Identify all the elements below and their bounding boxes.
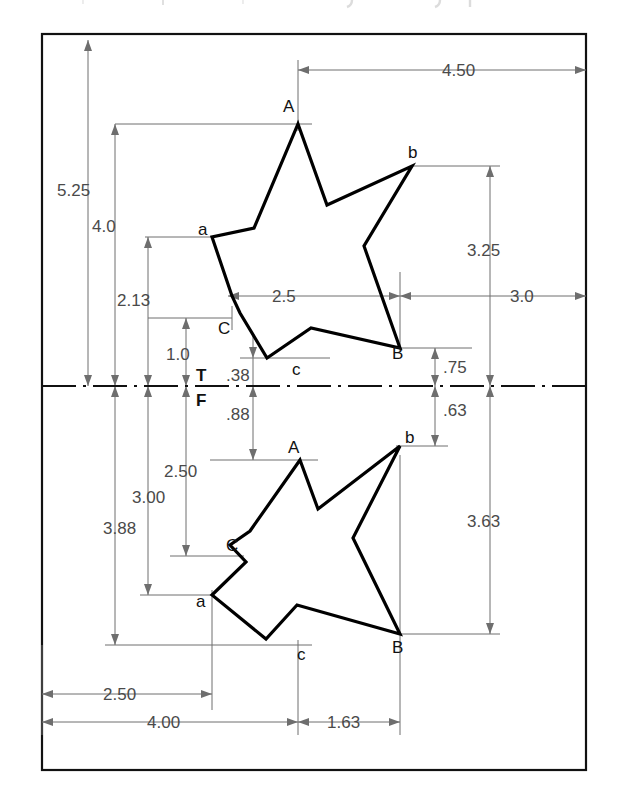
dimension-lines-group xyxy=(42,40,586,735)
arrow-3-63-bottom xyxy=(486,623,494,634)
dimtext-2-13: 2.13 xyxy=(117,291,150,310)
label-T: T xyxy=(196,366,207,385)
label-front-C: C xyxy=(226,536,238,555)
arrow-4-0-bottom xyxy=(111,375,119,386)
arrow-4-50-right xyxy=(575,66,586,74)
engineering-drawing-svg: A b a B C c A b C a B c T F 4.50 5.25 4.… xyxy=(0,0,618,804)
arrow-3-0-right xyxy=(575,292,586,300)
arrow-4-00-right xyxy=(287,718,298,726)
arrow-2-13-top xyxy=(144,237,152,248)
arrow-5-25-top xyxy=(84,40,92,51)
arrow-3-00-bottom xyxy=(144,584,152,595)
arrow-0-63-bottom xyxy=(431,435,439,446)
dimtext-4-00: 4.00 xyxy=(147,713,180,732)
dimtext-3-0: 3.0 xyxy=(510,287,534,306)
arrow-0-75-bottom xyxy=(431,375,439,386)
arrow-0-38-top xyxy=(249,347,257,358)
arrow-3-25-top xyxy=(486,166,494,177)
label-front-b: b xyxy=(405,428,414,447)
label-front-c: c xyxy=(297,645,306,664)
dimtext-1-0: 1.0 xyxy=(166,345,190,364)
arrow-5-25-bottom xyxy=(84,375,92,386)
arrow-3-0-left xyxy=(400,292,411,300)
arrow-2-50-top xyxy=(182,386,190,397)
drawing-border xyxy=(42,34,586,770)
label-front-A: A xyxy=(288,438,300,457)
label-top-A: A xyxy=(283,97,295,116)
dimtext-0-38: .38 xyxy=(226,366,250,385)
label-front-B: B xyxy=(392,638,403,657)
dimtext-0-63: .63 xyxy=(443,401,467,420)
arrow-0-88-top xyxy=(249,386,257,397)
drawing-canvas: A b a B C c A b C a B c T F 4.50 5.25 4.… xyxy=(0,0,618,804)
arrow-2-13-bottom xyxy=(144,375,152,386)
arrow-3-88-bottom xyxy=(111,634,119,645)
label-top-B: B xyxy=(392,344,403,363)
arrow-2-50b-right xyxy=(201,690,212,698)
label-top-c: c xyxy=(292,360,301,379)
dimtext-5-25: 5.25 xyxy=(57,181,90,200)
arrow-2-5-right xyxy=(389,292,400,300)
dimtext-3-63: 3.63 xyxy=(467,512,500,531)
dimtext-0-88: .88 xyxy=(226,405,250,424)
label-F: F xyxy=(196,391,206,410)
label-top-C: C xyxy=(218,319,230,338)
arrow-3-25-bottom xyxy=(486,375,494,386)
arrow-4-0-top xyxy=(111,124,119,135)
label-front-a: a xyxy=(196,592,206,611)
arrow-3-63-top xyxy=(486,386,494,397)
dimtext-3-25: 3.25 xyxy=(467,241,500,260)
dimtext-2-50-mid: 2.50 xyxy=(164,462,197,481)
dimtext-3-00: 3.00 xyxy=(132,488,165,507)
arrow-3-88-top xyxy=(111,386,119,397)
arrow-4-50-left xyxy=(298,66,309,74)
dimtext-0-75: .75 xyxy=(443,358,467,377)
arrow-1-0-top xyxy=(182,318,190,329)
top-view-star xyxy=(212,124,412,358)
arrow-0-63-top xyxy=(431,386,439,397)
arrow-1-63-left xyxy=(298,718,309,726)
cropped-caption-remnant xyxy=(83,0,470,7)
dimtext-4-0: 4.0 xyxy=(92,217,116,236)
front-view-star xyxy=(212,446,400,639)
arrow-3-00-top xyxy=(144,386,152,397)
arrow-2-50-bottom xyxy=(182,545,190,556)
dimtext-4-50: 4.50 xyxy=(442,61,475,80)
dimtext-2-50-bottom: 2.50 xyxy=(103,685,136,704)
dimtext-1-63: 1.63 xyxy=(327,713,360,732)
label-top-a: a xyxy=(198,220,208,239)
arrow-4-00-left xyxy=(42,718,53,726)
dimtext-3-88: 3.88 xyxy=(103,519,136,538)
arrow-1-0-bottom xyxy=(182,375,190,386)
arrow-0-88-bottom xyxy=(249,449,257,460)
arrow-2-50b-left xyxy=(42,690,53,698)
dimtext-2-5: 2.5 xyxy=(272,287,296,306)
arrow-0-75-top xyxy=(431,348,439,359)
label-top-b: b xyxy=(408,143,417,162)
arrow-1-63-right xyxy=(389,718,400,726)
